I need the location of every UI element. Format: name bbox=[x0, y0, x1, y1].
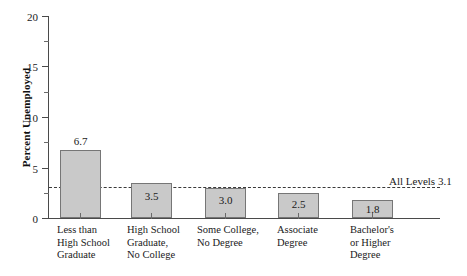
y-minor-tick-7-5 bbox=[44, 142, 49, 143]
y-tick-mark-10 bbox=[42, 117, 49, 118]
x-category-label-some-college-no-degree: Some College, No Degree bbox=[197, 224, 259, 249]
x-tick-mark-5 bbox=[372, 213, 373, 219]
y-minor-tick-2-5 bbox=[44, 193, 49, 194]
y-tick-label-0: 0 bbox=[4, 214, 38, 225]
bar-value-associate-degree: 2.5 bbox=[278, 199, 319, 210]
x-tick-mark-2 bbox=[151, 213, 152, 219]
y-tick-label-20: 20 bbox=[4, 12, 38, 23]
x-tick-mark-1 bbox=[80, 213, 81, 219]
x-tick-mark-4 bbox=[298, 213, 299, 219]
y-minor-tick-17-5 bbox=[44, 41, 49, 42]
bar-less-than-high-school[interactable] bbox=[60, 150, 101, 218]
unemployment-by-education-bar-chart: Percent Unemployed 20 15 10 5 0 All Leve… bbox=[0, 0, 467, 276]
reference-line-label: All Levels 3.1 bbox=[389, 176, 452, 187]
y-tick-label-10: 10 bbox=[4, 113, 38, 124]
x-category-label-less-than-high-school: Less than High School Graduate bbox=[57, 224, 110, 262]
y-tick-mark-0 bbox=[42, 218, 49, 219]
y-minor-tick-12-5 bbox=[44, 92, 49, 93]
x-axis-line bbox=[48, 218, 440, 219]
y-tick-mark-20 bbox=[42, 16, 49, 17]
x-category-label-bachelors-or-higher: Bachelor's or Higher Degree bbox=[350, 224, 394, 262]
y-tick-mark-15 bbox=[42, 66, 49, 67]
y-tick-label-15: 15 bbox=[4, 62, 38, 73]
y-tick-label-5: 5 bbox=[4, 164, 38, 175]
bar-value-some-college-no-degree: 3.0 bbox=[205, 195, 246, 206]
bar-value-high-school-graduate: 3.5 bbox=[131, 191, 172, 202]
x-category-label-associate-degree: Associate Degree bbox=[277, 224, 318, 249]
y-tick-mark-5 bbox=[42, 168, 49, 169]
x-tick-mark-3 bbox=[225, 213, 226, 219]
x-category-label-high-school-graduate: High School Graduate, No College bbox=[127, 224, 180, 262]
bar-value-less-than-high-school: 6.7 bbox=[60, 136, 101, 147]
